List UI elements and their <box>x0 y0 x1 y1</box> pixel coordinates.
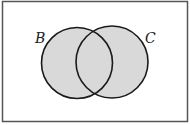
set-b-label: B <box>34 30 45 46</box>
set-c-label: C <box>145 30 156 46</box>
venn-diagram: B C <box>0 0 190 125</box>
